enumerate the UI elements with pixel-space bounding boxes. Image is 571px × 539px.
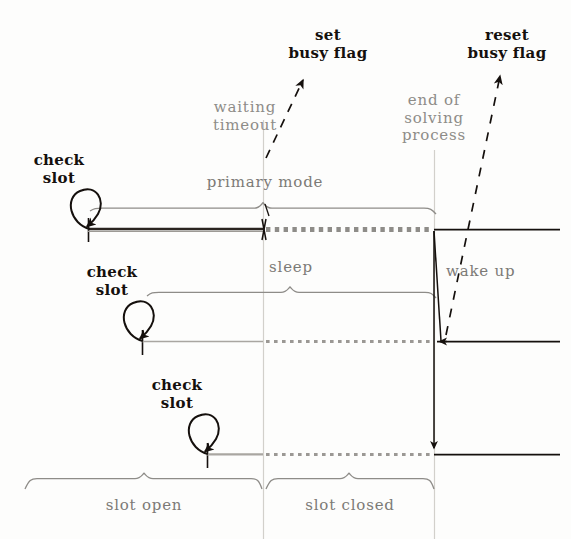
check-slot-label-2: check slot xyxy=(70,264,154,299)
primary-mode-label: primary mode xyxy=(190,174,340,192)
check-slot-loop-3 xyxy=(189,414,219,454)
end-of-solving-process-label: end of solving process xyxy=(384,92,484,145)
timing-diagram-canvas: set busy flag reset busy flag waiting ti… xyxy=(0,0,571,539)
slot-open-label: slot open xyxy=(84,497,204,515)
check-slot-label-1: check slot xyxy=(17,152,101,187)
row-3-slot-timeline xyxy=(207,443,560,468)
wake-up-label: wake up xyxy=(446,263,515,281)
reset-busy-flag-label: reset busy flag xyxy=(452,27,562,62)
brace-sleep xyxy=(147,287,436,298)
wake-up-arrow-row2 xyxy=(434,231,447,342)
check-slot-loop-2 xyxy=(124,301,154,341)
brace-primary-mode-tick xyxy=(265,204,269,216)
row-2-sleep-timeline xyxy=(142,330,560,355)
brace-slot-open xyxy=(25,473,262,489)
sleep-label: sleep xyxy=(250,259,332,277)
check-slot-loop-1 xyxy=(71,189,101,229)
slot-closed-label: slot closed xyxy=(290,497,410,515)
brace-slot-closed xyxy=(266,473,434,489)
check-slot-label-3: check slot xyxy=(135,377,219,412)
set-busy-flag-label: set busy flag xyxy=(278,27,378,62)
waiting-timeout-label: waiting timeout xyxy=(190,99,300,134)
row-1-primary-timeline xyxy=(88,218,560,242)
